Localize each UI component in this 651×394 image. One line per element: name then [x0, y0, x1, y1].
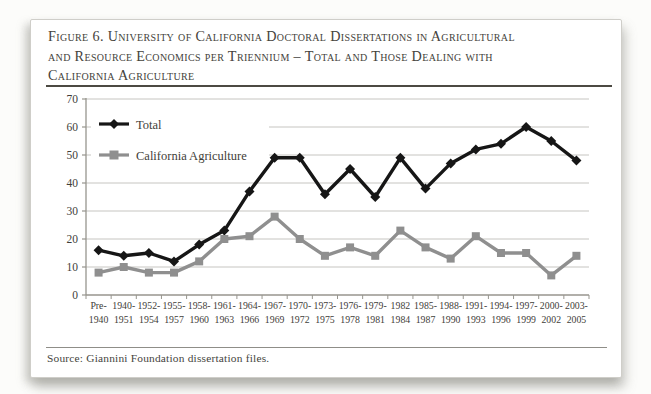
source-note: Source: Giannini Foundation dissertation…: [47, 352, 269, 364]
legend-label-california-agriculture: California Agriculture: [136, 149, 247, 163]
data-point-california-agriculture-Pre-1940: [95, 269, 103, 277]
data-point-total-1940-1951: [119, 251, 129, 261]
x-label-1976-1978-line1: 1976-: [339, 300, 362, 311]
data-point-california-agriculture-1961-1963: [220, 235, 228, 243]
x-label-1991-1993-line2: 1993: [466, 314, 486, 325]
data-point-california-agriculture-1952-1954: [145, 269, 153, 277]
data-point-california-agriculture-1979-1981: [371, 252, 379, 260]
x-label-2003-2005-line1: 2003-: [565, 300, 588, 311]
x-label-1964-1966-line1: 1964-: [238, 300, 261, 311]
x-label-1955-1957-line1: 1955-: [163, 300, 186, 311]
x-label-1985-1987-line1: 1985-: [414, 300, 437, 311]
data-point-california-agriculture-1940-1951: [120, 263, 128, 271]
data-point-california-agriculture-1976-1978: [346, 243, 354, 251]
x-label-1958-1960-line2: 1960: [189, 314, 209, 325]
data-point-california-agriculture-1955-1957: [170, 269, 178, 277]
y-tick-label-40: 40: [67, 177, 79, 189]
x-label-1994-1996-line1: 1994-: [490, 300, 513, 311]
x-label-1961-1963-line2: 1963: [215, 314, 235, 325]
x-label-1997-1999-line2: 1999: [516, 314, 536, 325]
data-point-california-agriculture-1973-1975: [321, 252, 329, 260]
y-tick-label-10: 10: [67, 261, 79, 273]
x-label-1997-1999-line1: 1997-: [515, 300, 538, 311]
x-label-2000-2002-line1: 2000-: [540, 300, 563, 311]
x-label-1940-1951-line2: 1951: [114, 314, 134, 325]
data-point-california-agriculture-1958-1960: [195, 257, 203, 265]
x-label-1988-1990-line2: 1990: [441, 314, 461, 325]
x-label-1958-1960-line1: 1958-: [188, 300, 211, 311]
data-point-california-agriculture-1967-1969: [271, 213, 279, 221]
figure-title-line-2: and Resource Economics per Triennium – T…: [48, 47, 618, 67]
x-label-1967-1969-line2: 1969: [265, 314, 285, 325]
data-point-california-agriculture-1985-1987: [422, 243, 430, 251]
x-label-1970-1972-line2: 1972: [290, 314, 310, 325]
data-point-california-agriculture-1991-1993: [472, 232, 480, 240]
figure-title-line-1: Figure 6. University of California Docto…: [48, 27, 618, 47]
y-tick-label-0: 0: [72, 289, 78, 301]
data-point-california-agriculture-1982-1984: [396, 227, 404, 235]
source-divider-rule: [46, 347, 607, 348]
x-label-2000-2002-line2: 2002: [541, 314, 561, 325]
x-label-Pre-1940-line2: 1940: [89, 314, 109, 325]
data-point-california-agriculture-1988-1990: [447, 255, 455, 263]
data-point-california-agriculture-1997-1999: [522, 249, 530, 257]
x-label-1964-1966-line2: 1966: [240, 314, 260, 325]
y-tick-label-50: 50: [67, 149, 79, 161]
y-tick-label-30: 30: [67, 205, 79, 217]
x-label-1991-1993-line1: 1991-: [464, 300, 487, 311]
x-label-1994-1996-line2: 1996: [491, 314, 511, 325]
y-tick-label-70: 70: [67, 93, 79, 105]
x-label-1961-1963-line1: 1961-: [213, 300, 236, 311]
x-label-1973-1975-line1: 1973-: [313, 300, 336, 311]
x-label-1979-1981-line2: 1981: [365, 314, 385, 325]
x-label-1940-1951-line1: 1940-: [112, 300, 135, 311]
x-label-1952-1954-line2: 1954: [139, 314, 159, 325]
data-point-california-agriculture-1964-1966: [245, 232, 253, 240]
x-label-1970-1972-line1: 1970-: [288, 300, 311, 311]
x-label-1979-1981-line1: 1979-: [364, 300, 387, 311]
x-label-1952-1954-line1: 1952-: [137, 300, 160, 311]
legend-label-total: Total: [136, 118, 162, 132]
x-label-1982-1984-line1: 1982: [391, 300, 411, 311]
x-label-1967-1969-line1: 1967-: [263, 300, 286, 311]
data-point-total-Pre-1940: [94, 245, 104, 255]
x-label-2003-2005-line2: 2005: [567, 314, 587, 325]
data-point-california-agriculture-2003-2005: [572, 252, 580, 260]
x-label-1985-1987-line2: 1987: [416, 314, 436, 325]
legend-marker-california-agriculture: [110, 151, 119, 160]
data-point-california-agriculture-1970-1972: [296, 235, 304, 243]
x-label-1988-1990-line1: 1988-: [439, 300, 462, 311]
data-point-california-agriculture-2000-2002: [547, 271, 555, 279]
dissertations-line-chart: 010203040506070Pre-19401940-19511952-195…: [41, 75, 621, 337]
data-point-california-agriculture-1994-1996: [497, 249, 505, 257]
y-tick-label-60: 60: [67, 121, 79, 133]
x-label-1976-1978-line2: 1978: [340, 314, 360, 325]
y-tick-label-20: 20: [67, 233, 79, 245]
data-point-total-1952-1954: [144, 248, 154, 258]
x-label-1982-1984-line2: 1984: [391, 314, 411, 325]
x-label-1955-1957-line2: 1957: [164, 314, 184, 325]
x-label-Pre-1940-line1: Pre-: [90, 300, 106, 311]
x-label-1973-1975-line2: 1975: [315, 314, 335, 325]
figure-page-card: Figure 6. University of California Docto…: [30, 19, 622, 378]
